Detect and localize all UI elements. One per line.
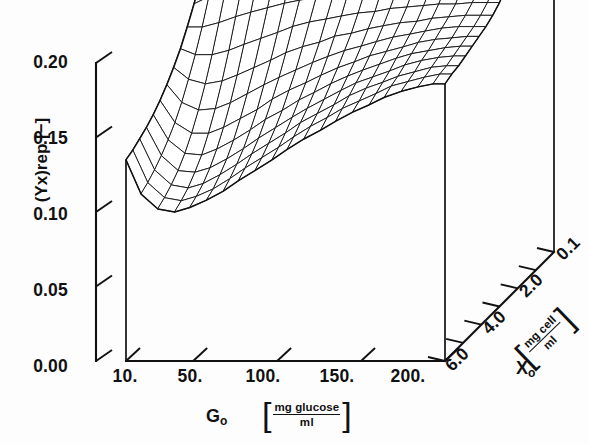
x-tick-label-2: 100. — [231, 366, 295, 387]
x-tick-label-0: 10. — [97, 366, 153, 387]
x-tick-label-4: 200. — [376, 366, 440, 387]
x-axis-title-text: G — [206, 406, 220, 426]
y-axis-title: (Yx)rep [−] — [32, 118, 51, 203]
y-tick-label-1: 0.05 — [0, 280, 68, 301]
x-axis-title: Go — [206, 406, 227, 427]
x-unit-denominator: ml — [273, 415, 340, 428]
x-unit-numerator: mg glucose — [273, 401, 340, 415]
left-bracket: [ — [262, 401, 271, 429]
x-axis-unit-box: [ mg glucose ml ] — [262, 401, 352, 429]
y-axis-title-text: (Yx)rep — [32, 144, 51, 203]
right-bracket: ] — [342, 401, 351, 429]
surface-plot-figure: 0.00 0.05 0.10 0.15 0.20 (Yx)rep [−] 10.… — [0, 0, 589, 445]
y-tick-label-4: 0.20 — [0, 52, 68, 73]
x-axis-title-sub: o — [220, 414, 227, 428]
x-tick-label-1: 50. — [162, 366, 218, 387]
y-tick-label-0: 0.00 — [0, 356, 68, 377]
y-axis-title-wrap: (Yx)rep [−] — [32, 90, 52, 230]
y-axis-unit: [−] — [32, 118, 51, 139]
x-unit-fraction: mg glucose ml — [271, 401, 342, 428]
x-tick-label-3: 150. — [305, 366, 369, 387]
surface-mesh — [126, 0, 554, 212]
